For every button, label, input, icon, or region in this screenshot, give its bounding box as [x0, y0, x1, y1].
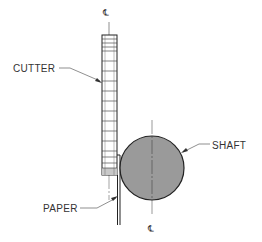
- centerline-bottom-label: ℄: [147, 224, 154, 234]
- paper-label: PAPER: [43, 203, 78, 214]
- shaft-callout: SHAFT: [181, 140, 246, 153]
- cutter-shaft-diagram: ℄: [0, 0, 262, 242]
- centerline-top-label: ℄: [102, 8, 109, 18]
- cutter-callout: CUTTER: [13, 63, 102, 83]
- shaft-label: SHAFT: [212, 140, 246, 151]
- paper-callout: PAPER: [43, 196, 118, 214]
- cutter: [102, 35, 117, 175]
- cutter-label: CUTTER: [13, 63, 55, 74]
- shaft: ℄: [120, 120, 184, 234]
